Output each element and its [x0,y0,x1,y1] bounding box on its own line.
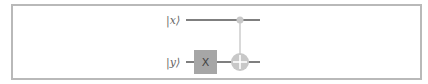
cnot-gate [231,17,249,72]
quantum-circuit: |x⟩ |y⟩ X [0,0,428,84]
qubit-label-x: |x⟩ [166,14,180,28]
qubit-label-y: |y⟩ [166,56,180,70]
x-gate: X [194,50,217,74]
x-gate-label: X [202,56,210,69]
control-dot-icon [237,17,244,24]
